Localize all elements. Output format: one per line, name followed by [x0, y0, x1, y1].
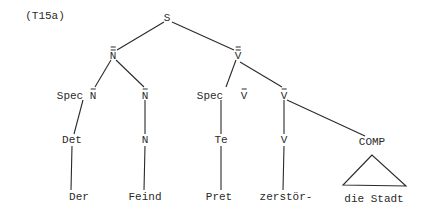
leaf-feind: Feind [128, 192, 161, 203]
node-s: S [164, 13, 171, 24]
branch-v-zerstor [283, 146, 284, 190]
leaf-zerstor: zerstör- [260, 192, 313, 203]
branch-specn-det [74, 100, 83, 134]
branch-vpp-specv [226, 60, 236, 87]
branch-vpp-vbar [240, 62, 282, 87]
comp-triangle [343, 155, 406, 186]
node-te: Te [214, 135, 227, 146]
node-spec-n-bar: N [90, 91, 97, 102]
node-spec-v-bar: V [241, 91, 248, 102]
tree-branches [0, 0, 428, 218]
node-n: N [142, 135, 149, 146]
branch-s-vpp [172, 22, 234, 50]
node-v-double-bar: V [235, 51, 242, 62]
node-v-bar: V [281, 91, 288, 102]
node-n-double-bar: N [110, 51, 117, 62]
branch-npp-specn [95, 60, 111, 87]
node-spec-n-label: Spec [57, 91, 83, 102]
leaf-die-stadt: die Stadt [344, 194, 403, 205]
node-det: Det [62, 135, 82, 146]
example-label: (T15a) [25, 11, 65, 22]
syntax-tree-diagram: (T15a) S N V Spec N N Spec V V Det N Te … [0, 0, 428, 218]
leaf-pret: Pret [206, 192, 232, 203]
node-v: V [281, 135, 288, 146]
branch-vbar-comp [287, 100, 365, 136]
branch-n-feind [144, 146, 145, 190]
node-n-bar: N [142, 91, 149, 102]
branch-s-npp [117, 22, 164, 50]
node-comp: COMP [359, 137, 385, 148]
branch-det-der [71, 146, 72, 190]
node-spec-v-label: Spec [197, 91, 223, 102]
branch-npp-nbar [116, 60, 144, 87]
leaf-der: Der [69, 192, 89, 203]
